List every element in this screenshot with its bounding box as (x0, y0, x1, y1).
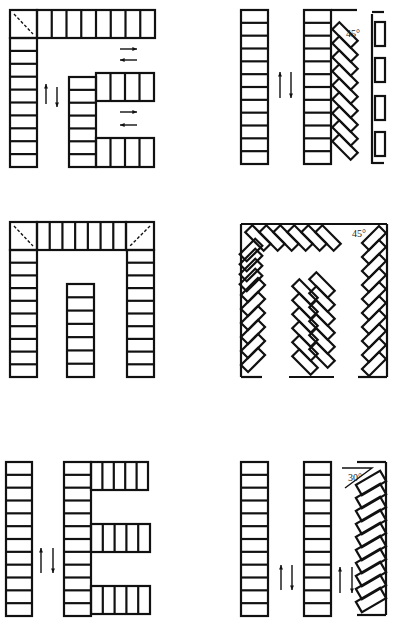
arrow-head-icon (290, 585, 294, 590)
arrow-head-icon (338, 567, 342, 572)
angled-stall (356, 523, 386, 547)
angled-stall (356, 549, 386, 573)
angled-stall (356, 484, 386, 508)
stall-row (91, 586, 150, 614)
stall-row (375, 96, 385, 120)
panel-l-shaped-layout (10, 10, 155, 167)
angled-stall (356, 497, 386, 521)
angled-stall (332, 106, 357, 131)
angled-stall (273, 225, 298, 250)
angled-stall (356, 588, 386, 612)
angled-stall (332, 50, 357, 75)
stall-row (91, 462, 148, 490)
stall-row (375, 132, 385, 156)
angled-stall (332, 78, 357, 103)
arrow-head-icon (39, 548, 43, 553)
angled-stall (332, 36, 357, 61)
panel-45-degree-single-side: 45° (241, 10, 385, 164)
arrow-head-icon (132, 47, 137, 51)
angled-stall (287, 225, 312, 250)
arrow-head-icon (44, 84, 48, 89)
panel-30-degree-single-side: 30° (241, 462, 386, 616)
parking-layout-diagram: 45° 45° 30° (0, 0, 394, 623)
panel-u-shaped-layout (10, 222, 154, 377)
angled-stall (332, 92, 357, 117)
stall-row (375, 22, 385, 46)
angled-stall (259, 225, 284, 250)
arrow-head-icon (55, 102, 59, 107)
arrow-head-icon (350, 588, 354, 593)
angled-stall (245, 225, 270, 250)
arrow-head-icon (279, 565, 283, 570)
stall-row (91, 524, 150, 552)
angled-stall (332, 120, 357, 145)
angled-stall (356, 510, 386, 534)
arrow-head-icon (120, 58, 125, 62)
arrow-head-icon (289, 93, 293, 98)
angled-stall (301, 225, 326, 250)
panel-45-degree-loop: 45° (240, 224, 387, 377)
arrow-head-icon (120, 123, 125, 127)
angled-stall (356, 575, 386, 599)
angle-label: 45° (346, 28, 360, 39)
dashed-corner-stall (130, 226, 150, 246)
angled-stall (332, 64, 357, 89)
angled-stall (356, 562, 386, 586)
angled-stall (356, 536, 386, 560)
panel-e-shaped-layout (6, 462, 150, 616)
angled-stall (332, 134, 357, 159)
angled-stall (241, 348, 265, 372)
angle-label: 45° (352, 228, 366, 239)
dashed-corner-stall (14, 14, 33, 34)
dashed-corner-stall (14, 226, 33, 246)
arrow-head-icon (132, 110, 137, 114)
angled-stall (362, 352, 386, 376)
arrow-head-icon (278, 72, 282, 77)
arrow-head-icon (51, 568, 55, 573)
stall-row (375, 58, 385, 82)
angled-stall (315, 225, 340, 250)
